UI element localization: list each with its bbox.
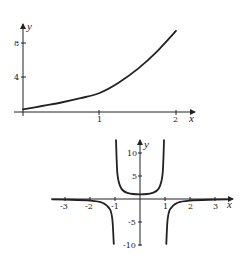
bottom-xtick-m2: -2 [85, 202, 93, 211]
bottom-xtick-m1: -1 [111, 202, 119, 211]
bottom-ytick-5: 5 [132, 172, 137, 181]
top-chart: 1 2 4 8 x y [14, 20, 195, 124]
top-x-label: x [188, 112, 194, 124]
top-xtick-2: 2 [173, 115, 178, 124]
bottom-xtick-m3: -3 [60, 202, 68, 211]
bottom-ytick-m10: -10 [123, 241, 136, 250]
bottom-y-label: y [143, 138, 149, 150]
top-ytick-8: 8 [14, 39, 19, 48]
bottom-xtick-2: 2 [188, 202, 193, 211]
bottom-x-label: x [226, 198, 232, 210]
bottom-ytick-10: 10 [127, 149, 137, 158]
top-xtick-1: 1 [97, 115, 102, 124]
right-branch-curve [166, 199, 227, 244]
top-ytick-4: 4 [14, 73, 19, 82]
top-y-label: y [26, 20, 32, 32]
bottom-ytick-m5: -5 [128, 218, 136, 227]
top-curve [23, 31, 176, 110]
bottom-chart: -3 -2 -1 1 2 3 10 5 -5 -10 x y [51, 138, 233, 250]
figure: 1 2 4 8 x y -3 -2 -1 1 2 3 10 5 -5 -10 [0, 0, 248, 268]
bottom-xtick-1: 1 [163, 202, 168, 211]
bottom-xtick-3: 3 [213, 202, 218, 211]
